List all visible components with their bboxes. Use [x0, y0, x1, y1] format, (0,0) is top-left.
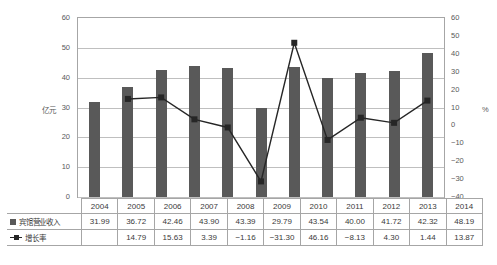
table-cell: −1.16: [227, 230, 263, 246]
table-year-header: 2010: [300, 199, 336, 214]
right-axis-tick: 10: [451, 104, 477, 112]
right-axis-tick: 60: [451, 14, 477, 22]
left-axis-unit: 亿元: [42, 104, 56, 115]
plot-wrapper: 6050403020100 亿元 6050403020100−10−20−30−…: [0, 0, 497, 200]
table-cell: 3.39: [191, 230, 227, 246]
table-cell: −8.13: [337, 230, 373, 246]
legend-item: 增长率: [7, 230, 82, 246]
table-year-header: 2011: [337, 199, 373, 214]
table-year-header: 2012: [373, 199, 409, 214]
table-cell: 43.54: [300, 214, 336, 230]
table-header-row: 2004200520062007200820092010201120122013…: [7, 199, 482, 214]
bar: [222, 68, 233, 197]
bar: [389, 71, 400, 197]
table-cell: 40.00: [337, 214, 373, 230]
gridline: [78, 48, 444, 49]
table-cell: 31.99: [82, 214, 118, 230]
bar: [122, 87, 133, 197]
table-cell: 29.79: [264, 214, 300, 230]
bar: [256, 108, 267, 197]
right-axis-tick: 20: [451, 86, 477, 94]
legend-item: 宾馆营业收入: [7, 214, 82, 230]
bar: [289, 67, 300, 197]
table-year-header: 2006: [154, 199, 190, 214]
table-cell: 48.19: [446, 214, 482, 230]
bar: [156, 70, 167, 197]
right-axis-unit: %: [482, 105, 489, 114]
growth-line: [128, 43, 427, 182]
left-axis-tick: 20: [46, 133, 70, 141]
table-cell: 1.44: [410, 230, 446, 246]
data-table: 2004200520062007200820092010201120122013…: [7, 198, 483, 246]
table-cell: 42.46: [154, 214, 190, 230]
line-marker: [291, 40, 297, 46]
table-row: 宾馆营业收入31.9936.7242.4643.9043.3929.7943.5…: [7, 214, 482, 230]
right-axis-tick: −30: [451, 175, 477, 183]
line-swatch-icon: [10, 235, 22, 241]
table-year-header: 2007: [191, 199, 227, 214]
right-axis-tick: −10: [451, 139, 477, 147]
left-axis-tick: 10: [46, 163, 70, 171]
table-row: 增长率14.7915.633.39−1.16−31.3046.16−8.134.…: [7, 230, 482, 246]
table-cell: 46.16: [300, 230, 336, 246]
table-year-header: 2014: [446, 199, 482, 214]
table-cell: 15.63: [154, 230, 190, 246]
bar: [189, 66, 200, 197]
table-corner-cell: [7, 199, 82, 214]
right-axis-tick: −20: [451, 157, 477, 165]
table-year-header: 2009: [264, 199, 300, 214]
bar: [422, 53, 433, 197]
bar: [89, 102, 100, 197]
table-cell: [82, 230, 118, 246]
table-year-header: 2008: [227, 199, 263, 214]
bar-swatch-icon: [10, 219, 16, 225]
table-cell: 13.87: [446, 230, 482, 246]
table-year-header: 2005: [118, 199, 154, 214]
chart-figure: 6050403020100 亿元 6050403020100−10−20−30−…: [0, 0, 497, 265]
table-cell: 42.32: [410, 214, 446, 230]
legend-label: 增长率: [25, 232, 45, 243]
left-axis-tick: 60: [46, 14, 70, 22]
table-cell: −31.30: [264, 230, 300, 246]
table-cell: 43.90: [191, 214, 227, 230]
table-cell: 14.79: [118, 230, 154, 246]
table-cell: 41.72: [373, 214, 409, 230]
plot-area: [77, 17, 445, 198]
legend-label: 宾馆营业收入: [19, 216, 60, 227]
table-cell: 43.39: [227, 214, 263, 230]
table-cell: 4.30: [373, 230, 409, 246]
bar: [322, 78, 333, 197]
left-axis-tick: 40: [46, 74, 70, 82]
table-year-header: 2004: [82, 199, 118, 214]
table-cell: 36.72: [118, 214, 154, 230]
bar: [355, 73, 366, 197]
left-axis-tick: 50: [46, 44, 70, 52]
right-axis-tick: 50: [451, 32, 477, 40]
right-axis-tick: 30: [451, 68, 477, 76]
right-axis-tick: 0: [451, 121, 477, 129]
table-year-header: 2013: [410, 199, 446, 214]
right-axis-tick: 40: [451, 50, 477, 58]
